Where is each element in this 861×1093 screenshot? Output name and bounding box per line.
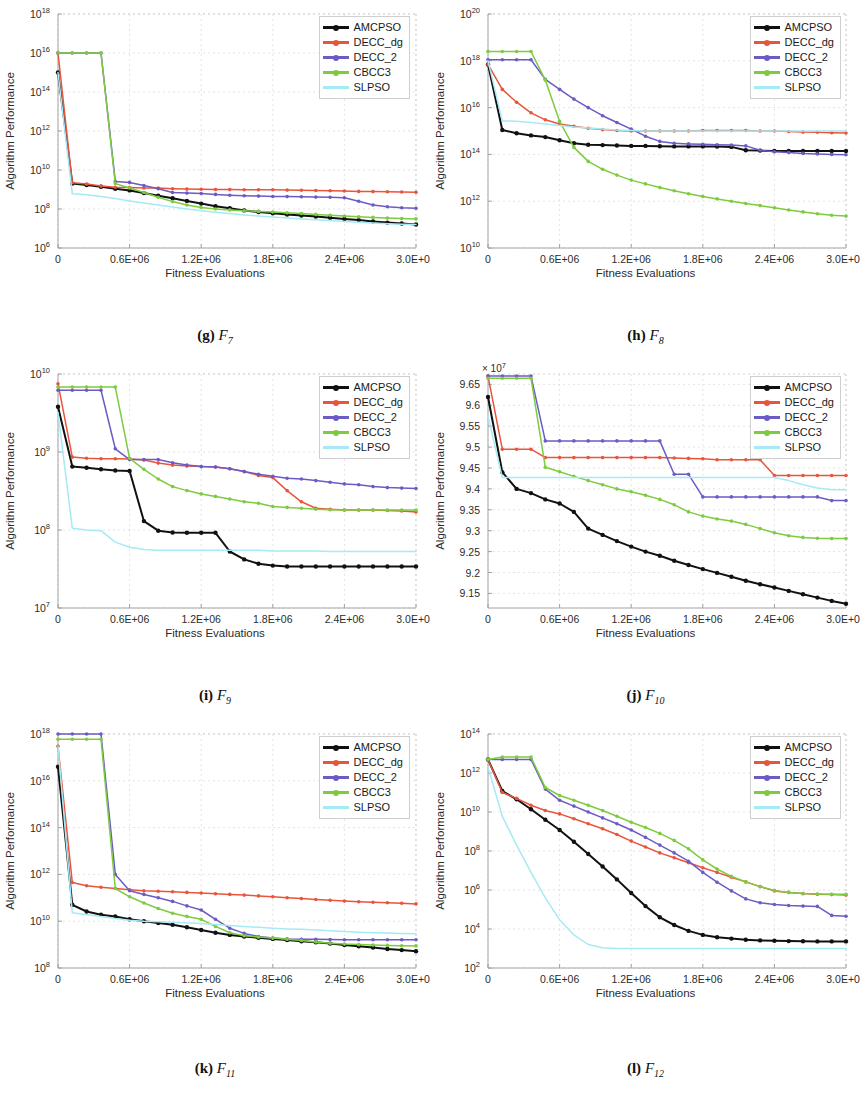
- series-marker-DECC_2: [128, 889, 132, 893]
- series-marker-DECC_dg: [744, 458, 748, 462]
- series-marker-CBCC3: [730, 875, 734, 879]
- y-tick-label: 9.45: [460, 462, 481, 474]
- series-marker-DECC_2: [544, 439, 548, 443]
- series-marker-AMCPSO: [643, 904, 647, 908]
- series-marker-CBCC3: [615, 173, 619, 177]
- series-marker-CBCC3: [486, 758, 490, 762]
- legend: AMCPSODECC_dgDECC_2CBCC3SLPSO: [319, 376, 410, 459]
- series-marker-AMCPSO: [500, 128, 504, 132]
- legend-item-DECC_2[interactable]: DECC_2: [323, 410, 403, 425]
- series-marker-DECC_dg: [371, 190, 375, 194]
- series-marker-CBCC3: [300, 212, 304, 216]
- series-marker-DECC_2: [715, 143, 719, 147]
- series-marker-AMCPSO: [185, 925, 189, 929]
- series-marker-AMCPSO: [629, 891, 633, 895]
- legend-item-AMCPSO[interactable]: AMCPSO: [323, 20, 403, 35]
- series-marker-AMCPSO: [701, 567, 705, 571]
- series-marker-DECC_dg: [715, 458, 719, 462]
- legend-swatch-icon: [754, 397, 780, 408]
- legend-item-DECC_dg[interactable]: DECC_dg: [754, 395, 834, 410]
- legend-item-SLPSO[interactable]: SLPSO: [323, 440, 403, 455]
- legend-item-DECC_2[interactable]: DECC_2: [323, 50, 403, 65]
- legend-item-AMCPSO[interactable]: AMCPSO: [323, 740, 403, 755]
- legend-item-DECC_2[interactable]: DECC_2: [754, 50, 834, 65]
- legend-item-DECC_dg[interactable]: DECC_dg: [754, 35, 834, 50]
- series-marker-DECC_dg: [99, 886, 103, 890]
- legend-item-DECC_dg[interactable]: DECC_dg: [323, 755, 403, 770]
- series-marker-AMCPSO: [170, 530, 174, 534]
- series-marker-DECC_dg: [242, 188, 246, 192]
- legend-item-SLPSO[interactable]: SLPSO: [754, 440, 834, 455]
- series-marker-AMCPSO: [299, 564, 303, 568]
- legend-item-AMCPSO[interactable]: AMCPSO: [323, 380, 403, 395]
- series-marker-DECC_2: [744, 495, 748, 499]
- legend-item-SLPSO[interactable]: SLPSO: [323, 800, 403, 815]
- series-marker-DECC_2: [844, 915, 848, 919]
- figure-grid: 1061081010101210141016101800.6E+061.2E+0…: [0, 0, 861, 1093]
- series-marker-CBCC3: [687, 847, 691, 851]
- legend-item-CBCC3[interactable]: CBCC3: [754, 425, 834, 440]
- series-marker-DECC_dg: [328, 189, 332, 193]
- series-marker-AMCPSO: [615, 877, 619, 881]
- series-marker-DECC_2: [615, 121, 619, 125]
- series-marker-AMCPSO: [729, 575, 733, 579]
- legend-swatch-icon: [323, 37, 349, 48]
- legend-item-CBCC3[interactable]: CBCC3: [323, 785, 403, 800]
- legend-swatch-icon: [323, 757, 349, 768]
- series-marker-CBCC3: [744, 523, 748, 527]
- series-marker-CBCC3: [658, 498, 662, 502]
- legend-item-SLPSO[interactable]: SLPSO: [754, 800, 834, 815]
- y-tick-label: 1012: [460, 765, 480, 779]
- legend-item-AMCPSO[interactable]: AMCPSO: [754, 380, 834, 395]
- series-marker-CBCC3: [85, 737, 89, 741]
- series-marker-CBCC3: [515, 755, 519, 759]
- series-marker-DECC_dg: [271, 188, 275, 192]
- legend-item-CBCC3[interactable]: CBCC3: [323, 65, 403, 80]
- series-marker-CBCC3: [644, 182, 648, 186]
- series-marker-DECC_dg: [400, 190, 404, 194]
- series-marker-AMCPSO: [600, 864, 604, 868]
- series-marker-AMCPSO: [285, 564, 289, 568]
- series-marker-CBCC3: [242, 209, 246, 213]
- legend-item-SLPSO[interactable]: SLPSO: [323, 80, 403, 95]
- y-tick-label: 104: [464, 921, 480, 935]
- legend-item-DECC_dg[interactable]: DECC_dg: [323, 35, 403, 50]
- series-marker-DECC_2: [672, 141, 676, 145]
- y-tick-label: 9.5: [465, 441, 480, 453]
- series-marker-AMCPSO: [830, 599, 834, 603]
- legend-item-AMCPSO[interactable]: AMCPSO: [754, 20, 834, 35]
- legend-item-SLPSO[interactable]: SLPSO: [754, 80, 834, 95]
- series-marker-DECC_dg: [71, 455, 75, 459]
- series-marker-AMCPSO: [787, 589, 791, 593]
- legend-item-AMCPSO[interactable]: AMCPSO: [754, 740, 834, 755]
- series-marker-DECC_dg: [199, 188, 203, 192]
- series-marker-CBCC3: [558, 470, 562, 474]
- legend-item-DECC_2[interactable]: DECC_2: [754, 770, 834, 785]
- x-tick-label: 0.6E+06: [110, 253, 150, 265]
- series-marker-AMCPSO: [844, 149, 848, 153]
- legend-item-DECC_dg[interactable]: DECC_dg: [754, 755, 834, 770]
- legend-item-CBCC3[interactable]: CBCC3: [323, 425, 403, 440]
- x-tick-label: 2.4E+06: [325, 253, 365, 265]
- legend-label: DECC_dg: [353, 397, 403, 408]
- series-marker-DECC_2: [644, 439, 648, 443]
- legend-item-DECC_dg[interactable]: DECC_dg: [323, 395, 403, 410]
- legend-swatch-icon: [754, 772, 780, 783]
- y-tick-label: 108: [34, 960, 50, 974]
- series-marker-CBCC3: [701, 858, 705, 862]
- legend-item-DECC_2[interactable]: DECC_2: [754, 410, 834, 425]
- legend-item-CBCC3[interactable]: CBCC3: [754, 65, 834, 80]
- legend-label: DECC_2: [784, 52, 827, 63]
- legend-item-DECC_2[interactable]: DECC_2: [323, 770, 403, 785]
- legend-item-CBCC3[interactable]: CBCC3: [754, 785, 834, 800]
- series-marker-DECC_dg: [529, 111, 533, 115]
- series-marker-DECC_2: [357, 938, 361, 942]
- series-marker-DECC_dg: [300, 897, 304, 901]
- series-marker-DECC_2: [586, 810, 590, 814]
- series-marker-DECC_2: [214, 918, 218, 922]
- y-tick-label: 9.4: [465, 483, 480, 495]
- chart-panel-h: 10101012101410161018102000.6E+061.2E+061…: [430, 0, 861, 360]
- series-marker-CBCC3: [586, 160, 590, 164]
- series-marker-DECC_2: [343, 938, 347, 942]
- series-marker-DECC_dg: [156, 890, 160, 894]
